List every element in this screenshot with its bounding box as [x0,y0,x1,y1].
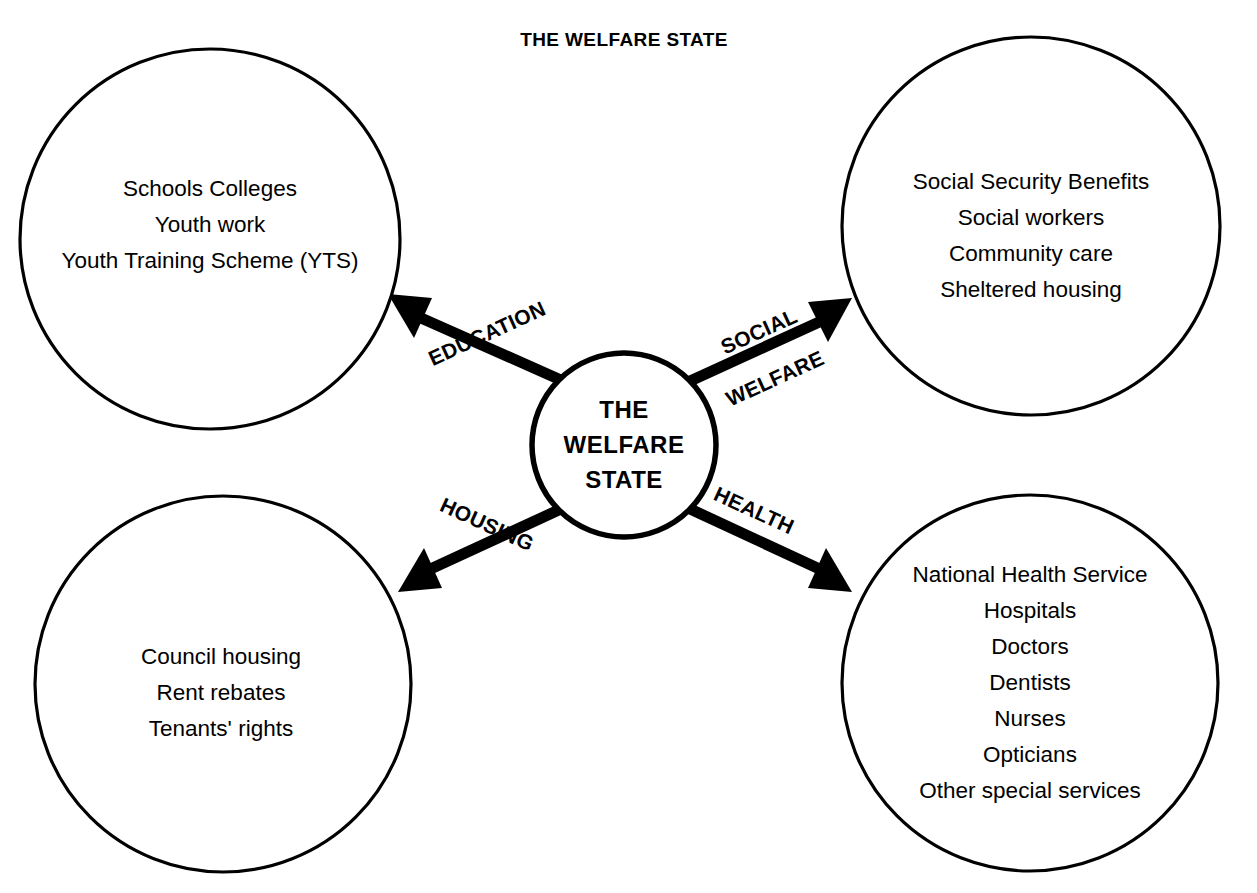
node-social-welfare-item-3: Sheltered housing [940,277,1121,302]
node-health-item-5: Opticians [983,742,1077,767]
center-node-line-2: WELFARE [564,431,685,458]
node-education-item-0: Schools Colleges [123,176,297,201]
page-title: THE WELFARE STATE [520,29,728,50]
node-health-item-3: Dentists [989,670,1070,695]
node-housing-item-1: Rent rebates [157,680,286,705]
node-education-item-1: Youth work [155,212,266,237]
node-health-item-1: Hospitals [984,598,1077,623]
node-education-item-2: Youth Training Scheme (YTS) [62,248,359,273]
diagram-canvas: THE WELFARE STATE THE WELFARE STATE Scho… [0,0,1257,893]
node-health-item-6: Other special services [919,778,1140,803]
node-social-welfare-item-2: Community care [949,241,1113,266]
node-health-item-2: Doctors [991,634,1069,659]
node-health-item-0: National Health Service [912,562,1147,587]
node-circle-education[interactable] [20,49,400,429]
node-health-item-4: Nurses [994,706,1065,731]
welfare-state-diagram: THE WELFARE STATE THE WELFARE STATE Scho… [0,0,1257,893]
node-social-welfare-item-0: Social Security Benefits [913,169,1149,194]
node-housing-item-0: Council housing [141,644,301,669]
center-node-line-1: THE [599,396,649,423]
node-housing-item-2: Tenants' rights [149,716,293,741]
node-social-welfare-item-1: Social workers [958,205,1104,230]
node-label-housing: Council housing Rent rebates Tenants' ri… [141,644,301,741]
center-node-line-3: STATE [585,466,663,493]
